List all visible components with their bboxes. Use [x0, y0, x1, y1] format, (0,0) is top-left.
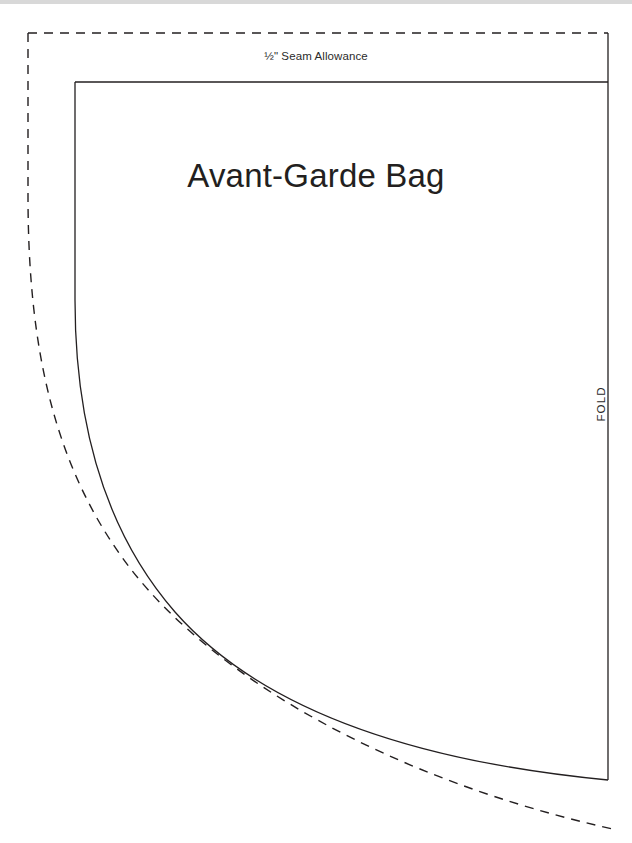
cutting-line-curve [28, 33, 617, 830]
stitching-line-group [75, 33, 608, 780]
pattern-drawing [0, 0, 632, 843]
fold-label: FOLD [595, 386, 607, 421]
seam-allowance-label: ½" Seam Allowance [0, 50, 632, 62]
cutting-line-group [28, 33, 617, 830]
page-title: Avant-Garde Bag [0, 157, 632, 195]
pattern-page: ½" Seam Allowance Avant-Garde Bag FOLD [0, 0, 632, 843]
